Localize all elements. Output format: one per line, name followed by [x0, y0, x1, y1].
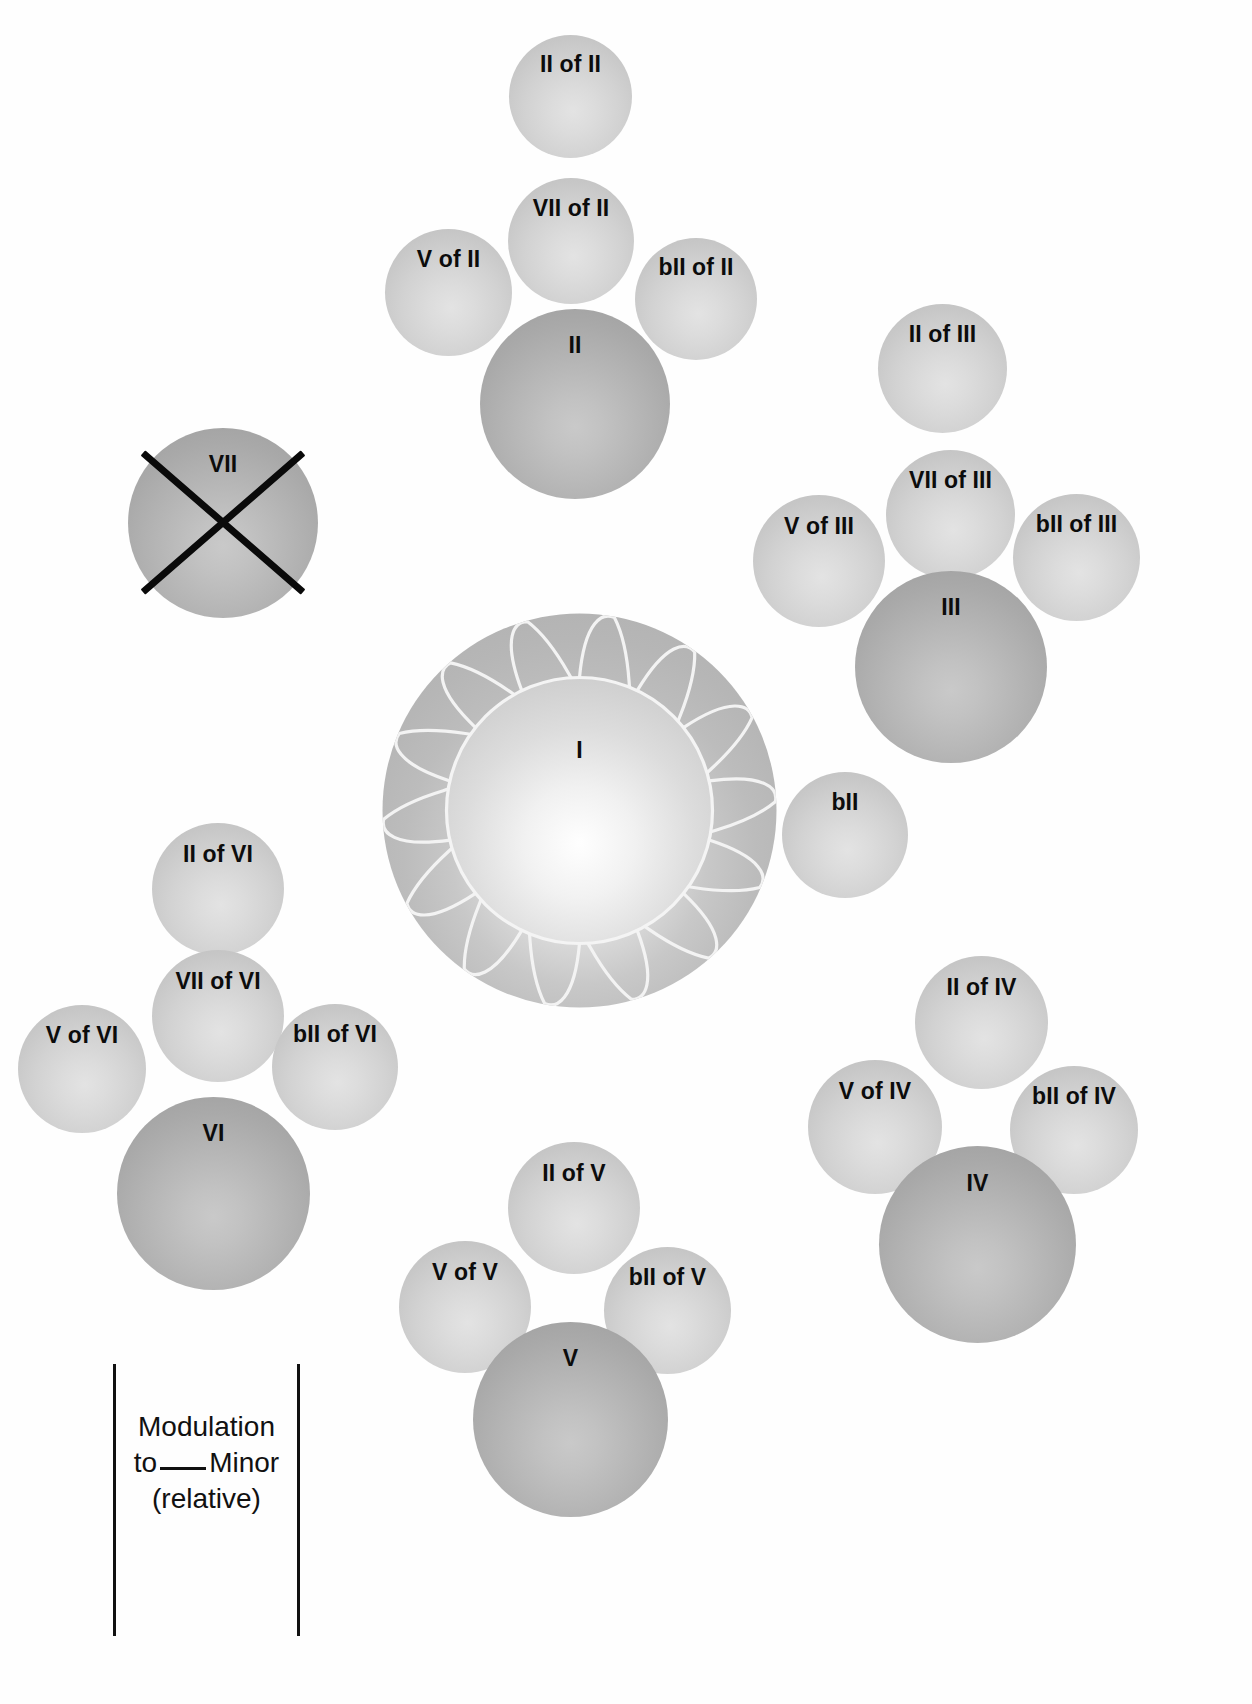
node-iv[interactable]: IV	[879, 1146, 1076, 1343]
node-label: II of IV	[915, 976, 1048, 999]
modulation-line-2-after: Minor	[209, 1447, 279, 1478]
node-label: V of IV	[808, 1080, 942, 1103]
node-label: bII	[782, 791, 908, 814]
node-vii-of-ii[interactable]: VII of II	[508, 178, 634, 304]
node-ii-of-vi[interactable]: II of VI	[152, 823, 284, 955]
node-label: V	[473, 1347, 668, 1370]
node-label: bII of V	[604, 1266, 731, 1289]
node-label: II of III	[878, 323, 1007, 346]
node-ii[interactable]: II	[480, 309, 670, 499]
node-label: II of V	[508, 1162, 640, 1185]
node-label: II of VI	[152, 843, 284, 866]
node-label: III	[855, 596, 1047, 619]
node-label: VII of VI	[152, 970, 284, 993]
node-label: II	[480, 334, 670, 357]
node-label: V of II	[385, 248, 512, 271]
node-label: V of V	[399, 1261, 531, 1284]
modulation-line-2: toMinor	[113, 1445, 300, 1481]
node-ii-of-iv[interactable]: II of IV	[915, 956, 1048, 1089]
node-v[interactable]: V	[473, 1322, 668, 1517]
node-label: IV	[879, 1172, 1076, 1195]
node-bii[interactable]: bII	[782, 772, 908, 898]
node-bii-of-vi[interactable]: bII of VI	[272, 1004, 398, 1130]
node-label: V of VI	[18, 1024, 146, 1047]
node-label: VI	[117, 1122, 310, 1145]
harmony-solar-system-diagram: II of II VII of II V of II bII of II II …	[0, 0, 1252, 1704]
node-label: VII of III	[886, 469, 1015, 492]
modulation-line-1: Modulation	[113, 1409, 300, 1445]
modulation-annotation: Modulation toMinor (relative)	[113, 1364, 300, 1636]
node-v-of-vi[interactable]: V of VI	[18, 1005, 146, 1133]
modulation-caption: Modulation toMinor (relative)	[113, 1409, 300, 1516]
node-label: I	[382, 737, 777, 764]
modulation-line-2-before: to	[134, 1447, 157, 1478]
node-ii-of-ii[interactable]: II of II	[509, 35, 632, 158]
node-vii-of-iii[interactable]: VII of III	[886, 450, 1015, 579]
node-label: bII of III	[1013, 513, 1140, 536]
node-label: bII of IV	[1010, 1085, 1138, 1108]
node-ii-of-iii[interactable]: II of III	[878, 304, 1007, 433]
modulation-line-3: (relative)	[113, 1481, 300, 1517]
node-label: bII of VI	[272, 1023, 398, 1046]
node-vii-of-vi[interactable]: VII of VI	[152, 950, 284, 1082]
node-ii-of-v[interactable]: II of V	[508, 1142, 640, 1274]
node-vi[interactable]: VI	[117, 1097, 310, 1290]
node-label: VII of II	[508, 197, 634, 220]
node-label: II of II	[509, 53, 632, 76]
node-label: V of III	[753, 515, 885, 538]
sun-icon	[382, 613, 777, 1008]
node-i-sun[interactable]: I	[382, 613, 777, 1008]
node-label: bII of II	[635, 256, 757, 279]
modulation-blank	[160, 1467, 206, 1470]
node-iii[interactable]: III	[855, 571, 1047, 763]
